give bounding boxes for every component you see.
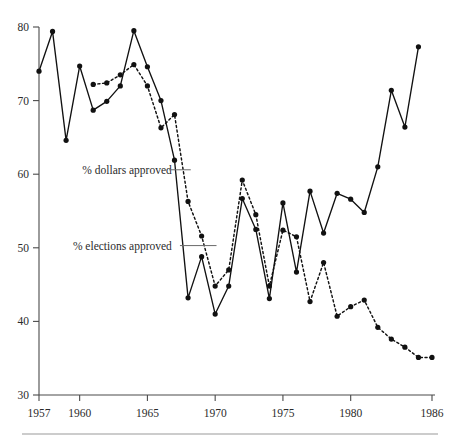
data-point: [280, 200, 285, 205]
data-point: [416, 44, 421, 49]
data-point: [118, 83, 123, 88]
series-layer: [36, 28, 434, 360]
series-2: [91, 62, 435, 360]
data-point: [335, 191, 340, 196]
data-point: [172, 158, 177, 163]
data-point: [429, 355, 434, 360]
data-point: [104, 99, 109, 104]
y-tick-label: 50: [18, 242, 30, 254]
data-point: [402, 125, 407, 130]
x-tick-group: 1957196019651970197519801986: [28, 395, 444, 419]
data-point: [375, 325, 380, 330]
data-point: [104, 80, 109, 85]
x-tick-label: 1970: [204, 407, 227, 419]
y-tick-label: 60: [18, 168, 30, 180]
data-point: [389, 88, 394, 93]
annotation-label: % dollars approved: [82, 164, 172, 177]
data-point: [158, 125, 163, 130]
y-tick-label: 80: [18, 21, 30, 33]
data-point: [321, 230, 326, 235]
data-point: [335, 314, 340, 319]
data-point: [158, 98, 163, 103]
data-point: [294, 269, 299, 274]
data-point: [321, 260, 326, 265]
data-point: [240, 196, 245, 201]
data-point: [91, 108, 96, 113]
x-tick-label: 1960: [68, 407, 91, 419]
y-tick-label: 70: [18, 95, 30, 107]
x-tick-label: 1986: [421, 407, 444, 419]
data-point: [375, 164, 380, 169]
data-point: [131, 62, 136, 67]
data-point: [185, 199, 190, 204]
data-point: [362, 210, 367, 215]
line-chart-svg: 304050607080 195719601965197019751980198…: [0, 0, 449, 438]
data-point: [131, 28, 136, 33]
data-point: [402, 345, 407, 350]
data-point: [267, 296, 272, 301]
series-line-2: [93, 65, 432, 358]
x-tick-label: 1975: [271, 407, 294, 419]
data-point: [294, 234, 299, 239]
data-point: [77, 63, 82, 68]
annotation-label: % elections approved: [73, 240, 172, 253]
data-point: [267, 283, 272, 288]
annotation-layer: % dollars approved% elections approved: [73, 164, 217, 253]
data-point: [416, 355, 421, 360]
y-tick-group: 304050607080: [18, 21, 40, 401]
data-point: [50, 29, 55, 34]
data-point: [185, 295, 190, 300]
data-point: [253, 227, 258, 232]
data-point: [199, 233, 204, 238]
data-point: [213, 283, 218, 288]
data-point: [280, 228, 285, 233]
data-point: [118, 72, 123, 77]
annotation-2: % elections approved: [73, 240, 217, 253]
data-point: [253, 212, 258, 217]
data-point: [172, 112, 177, 117]
data-point: [213, 311, 218, 316]
data-point: [348, 304, 353, 309]
x-tick-label: 1957: [28, 407, 51, 419]
data-point: [199, 254, 204, 259]
data-point: [348, 197, 353, 202]
data-point: [64, 138, 69, 143]
y-tick-label: 40: [18, 315, 30, 327]
data-point: [91, 82, 96, 87]
data-point: [226, 267, 231, 272]
data-point: [226, 283, 231, 288]
chart-figure: 304050607080 195719601965197019751980198…: [0, 0, 449, 438]
data-point: [145, 83, 150, 88]
y-tick-label: 30: [18, 389, 30, 401]
x-axis: 1957196019651970197519801986: [28, 395, 444, 419]
data-point: [389, 336, 394, 341]
y-axis: 304050607080: [18, 21, 40, 401]
x-tick-label: 1980: [339, 407, 362, 419]
data-point: [307, 299, 312, 304]
data-point: [36, 69, 41, 74]
data-point: [307, 189, 312, 194]
data-point: [240, 177, 245, 182]
data-point: [362, 297, 367, 302]
data-point: [145, 64, 150, 69]
x-tick-label: 1965: [136, 407, 159, 419]
